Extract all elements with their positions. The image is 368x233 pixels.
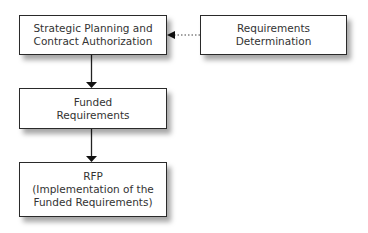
node-label: Requirements Determination xyxy=(236,22,312,48)
node-requirements-determination: Requirements Determination xyxy=(200,15,347,55)
dotted-arrow-requirements-to-strategic xyxy=(167,31,200,39)
arrow-funded-to-rfp xyxy=(86,128,97,162)
node-label: RFP (Implementation of the Funded Requir… xyxy=(32,170,154,209)
node-label: Funded Requirements xyxy=(57,96,130,122)
node-funded-requirements: Funded Requirements xyxy=(19,88,167,129)
node-strategic-planning: Strategic Planning and Contract Authoriz… xyxy=(19,15,167,55)
node-label: Strategic Planning and Contract Authoriz… xyxy=(33,22,152,48)
node-rfp: RFP (Implementation of the Funded Requir… xyxy=(19,162,167,217)
arrow-strategic-to-funded xyxy=(86,54,97,88)
